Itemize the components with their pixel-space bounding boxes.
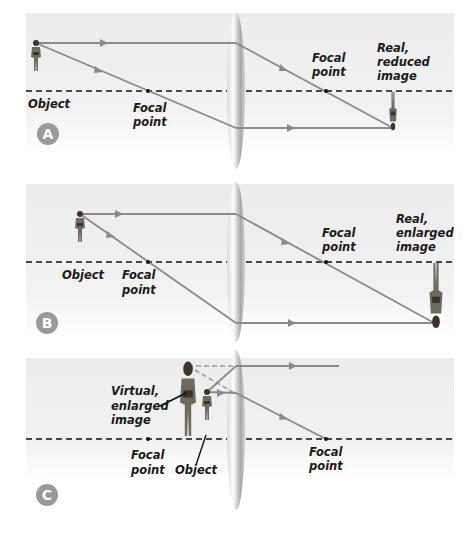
image-label-line3: image [396,240,436,254]
focal-right-label-line2: point [311,65,346,79]
focal-point-left [146,437,150,441]
image-label-line1: Virtual, [111,384,159,398]
image-label-line2: enlarged [111,399,169,413]
focal-left-label-line1: Focal [133,101,167,115]
badge-a-label: A [43,126,54,142]
focal-point-right [324,437,328,441]
image-label-line2: reduced [377,55,431,69]
focal-left-label-line2: point [121,283,156,297]
image-label-line2: enlarged [396,226,454,240]
focal-right-label-line1: Focal [312,51,346,65]
lens-diagram: Object Focal point Focal point Real, red… [0,0,469,538]
badge-c-label: C [42,487,52,503]
focal-right-label-line1: Focal [309,445,343,459]
focal-right-label-line2: point [308,459,343,473]
focal-point-right [324,260,328,264]
focal-point-left [146,260,150,264]
image-label-line1: Real, [377,41,409,55]
image-label-line1: Real, [396,212,428,226]
image-label-line3: image [111,413,151,427]
focal-left-label-line1: Focal [131,448,165,462]
object-label: Object [175,463,218,477]
panel-b: Object Focal point Focal point Real, enl… [26,182,454,342]
badge-b-label: B [42,315,53,331]
panel-a: Object Focal point Focal point Real, red… [26,13,454,169]
focal-right-label-line2: point [321,240,356,254]
focal-right-label-line1: Focal [322,226,356,240]
object-label: Object [62,268,105,282]
focal-point-left [146,89,150,93]
focal-point-right [324,89,328,93]
panel-c: Virtual, enlarged image Focal point Obje… [26,350,454,510]
convex-lens [227,13,245,169]
object-label: Object [28,97,71,111]
focal-left-label-line2: point [130,463,165,477]
image-label-line3: image [377,69,417,83]
focal-left-label-line2: point [132,115,167,129]
focal-left-label-line1: Focal [122,268,156,282]
convex-lens [227,350,245,510]
